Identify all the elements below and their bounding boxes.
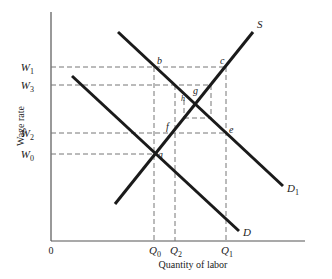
tick-w1: W1	[21, 61, 34, 76]
tick-w0: W0	[21, 148, 34, 163]
labor-market-diagram: S D D1 W1 W3 W2 W0 Q0 Q2 Q1 0 Quantity o…	[0, 0, 332, 279]
point-g: g	[193, 85, 198, 96]
point-e: e	[229, 124, 234, 135]
tick-q0: Q0	[149, 244, 161, 259]
point-f: f	[166, 121, 170, 132]
point-a: a	[158, 149, 163, 160]
point-h: h	[181, 94, 185, 103]
demand-curve-d1	[118, 32, 283, 186]
tick-q2: Q2	[170, 244, 182, 259]
tick-q1: Q1	[221, 244, 233, 259]
y-axis-title: Wage rate	[15, 105, 26, 146]
label-d1: D1	[286, 182, 299, 197]
label-s: S	[257, 18, 263, 30]
guide-lines	[51, 67, 226, 241]
point-c: c	[220, 55, 225, 66]
demand-curve-d	[72, 76, 239, 231]
label-d: D	[242, 226, 251, 238]
origin-label: 0	[49, 245, 54, 256]
x-axis-title: Quantity of labor	[159, 259, 229, 270]
point-b: b	[157, 55, 162, 66]
tick-w3: W3	[21, 79, 34, 94]
